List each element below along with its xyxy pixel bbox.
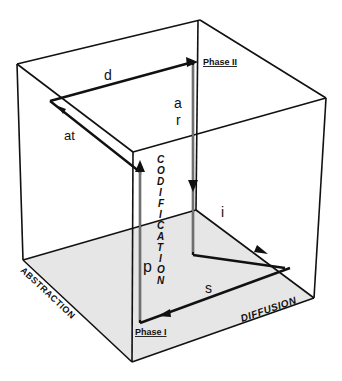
svg-text:D: D — [157, 176, 164, 187]
arrow-down-right-icon — [254, 245, 268, 254]
svg-text:C: C — [157, 154, 165, 165]
cube-diagram: d a r at p i s Phase II Phase I C O D I … — [0, 0, 342, 381]
phase-2-label: Phase II — [203, 57, 237, 67]
svg-text:F: F — [158, 198, 165, 209]
label-ar-a: a — [174, 95, 182, 111]
arrow-up-icon — [135, 160, 145, 172]
phase-1-label: Phase I — [135, 327, 167, 337]
svg-text:O: O — [157, 165, 165, 176]
label-ar-r: r — [176, 112, 181, 128]
svg-text:T: T — [157, 242, 164, 253]
svg-text:I: I — [159, 253, 162, 264]
svg-text:N: N — [157, 275, 165, 286]
svg-text:C: C — [157, 220, 165, 231]
label-i: i — [221, 204, 224, 220]
label-at: at — [64, 128, 75, 143]
axis-label-codification: C O D I F I C A T I O N — [156, 154, 165, 286]
svg-text:I: I — [159, 187, 162, 198]
label-p: p — [143, 258, 152, 275]
label-s: s — [205, 280, 212, 296]
svg-text:I: I — [159, 209, 162, 220]
svg-text:O: O — [157, 264, 165, 275]
svg-text:A: A — [156, 231, 164, 242]
cube-floor — [25, 210, 314, 362]
label-d: d — [104, 67, 112, 83]
